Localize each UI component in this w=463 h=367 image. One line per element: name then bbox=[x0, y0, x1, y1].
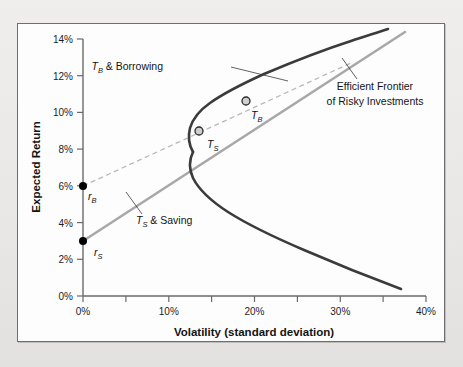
annotation-borrowing-leader bbox=[231, 67, 288, 81]
svg-text:TB & Borrowing: TB & Borrowing bbox=[91, 60, 163, 75]
x-tick-label: 40% bbox=[416, 306, 436, 317]
y-tick-label: 6% bbox=[59, 181, 74, 192]
y-tick-label: 4% bbox=[59, 218, 74, 229]
point-marker-rS bbox=[79, 237, 87, 245]
figure-frame: 14% 12% 10% 8% 6% 4% 2% 0% bbox=[17, 23, 445, 342]
point-label-TS: TS bbox=[207, 138, 218, 153]
annotation-frontier-line2: of Risky Investments bbox=[327, 95, 424, 107]
annotation-saving: TS & Saving bbox=[126, 192, 193, 229]
point-marker-TS bbox=[195, 127, 203, 135]
point-label-TB: TB bbox=[251, 109, 262, 124]
label-TS-sub: S bbox=[213, 144, 218, 153]
x-tick-label: 30% bbox=[330, 306, 350, 317]
svg-text:TB: TB bbox=[251, 109, 262, 124]
x-axis-title: Volatility (standard deviation) bbox=[174, 326, 334, 338]
y-tick-label: 8% bbox=[59, 144, 74, 155]
svg-text:rB: rB bbox=[88, 190, 97, 205]
point-marker-TB bbox=[242, 97, 250, 105]
point-label-rS: rS bbox=[94, 246, 103, 261]
y-tick-label: 14% bbox=[53, 34, 73, 45]
y-tick-label: 2% bbox=[59, 254, 74, 265]
x-axis-ticks bbox=[83, 296, 426, 302]
borrowing-capital-line bbox=[83, 62, 353, 186]
y-tick-label: 12% bbox=[53, 71, 73, 82]
annotation-frontier-leader bbox=[342, 58, 357, 79]
x-tick-label: 10% bbox=[159, 306, 179, 317]
label-rB-sub: B bbox=[92, 196, 97, 205]
y-axis-ticks bbox=[77, 39, 83, 296]
point-marker-rB bbox=[79, 182, 87, 190]
point-label-rB: rB bbox=[88, 190, 97, 205]
x-tick-label: 0% bbox=[76, 306, 91, 317]
svg-text:TS: TS bbox=[207, 138, 218, 153]
annotation-frontier-line1: Efficient Frontier bbox=[337, 80, 414, 92]
efficient-frontier-chart: 14% 12% 10% 8% 6% 4% 2% 0% bbox=[18, 24, 444, 340]
y-tick-label: 0% bbox=[59, 291, 74, 302]
annotation-borrowing-text: & Borrowing bbox=[103, 60, 163, 72]
x-axis-tick-labels: 0% 10% 20% 30% 40% bbox=[76, 306, 436, 317]
x-tick-label: 20% bbox=[244, 306, 264, 317]
y-tick-label: 10% bbox=[53, 107, 73, 118]
efficient-frontier-lower-branch bbox=[190, 152, 401, 289]
y-axis-tick-labels: 14% 12% 10% 8% 6% 4% 2% 0% bbox=[53, 34, 73, 302]
y-axis-title: Expected Return bbox=[30, 121, 42, 212]
annotation-frontier: Efficient Frontier of Risky Investments bbox=[327, 58, 424, 107]
annotation-saving-text: & Saving bbox=[147, 214, 192, 226]
label-TB-sub: B bbox=[257, 115, 262, 124]
svg-text:rS: rS bbox=[94, 246, 103, 261]
svg-text:TS & Saving: TS & Saving bbox=[136, 214, 193, 229]
label-rS-sub: S bbox=[98, 252, 103, 261]
figure-background: 14% 12% 10% 8% 6% 4% 2% 0% bbox=[0, 0, 463, 367]
